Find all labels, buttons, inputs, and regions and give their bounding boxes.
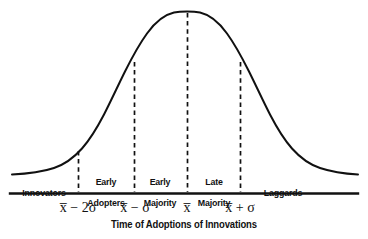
bell-curve-plot: [0, 0, 368, 239]
bell-curve-path: [12, 12, 358, 175]
x-axis-title: Time of Adoptions of Innovations: [9, 219, 359, 230]
diffusion-of-innovations-chart: Innovators Early Adopters Early Majority…: [0, 0, 368, 239]
